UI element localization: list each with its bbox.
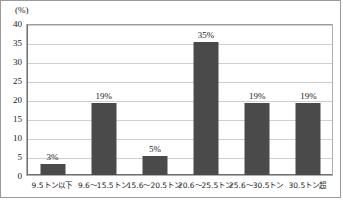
bar: [245, 103, 270, 175]
y-axis-tick-label: 40: [2, 19, 22, 29]
bar-group: 19%: [78, 25, 129, 175]
bar: [142, 156, 167, 175]
bar-value-label: 19%: [249, 91, 266, 101]
x-axis-tick-label: 15.6〜20.5トン: [127, 179, 181, 190]
chart-container: (%) 0510152025303540 3%19%5%35%19%19% 9.…: [0, 0, 341, 198]
bar-value-label: 19%: [300, 91, 317, 101]
x-axis-tick-label: 25.6〜30.5トン: [229, 179, 283, 190]
y-axis-tick-label: 10: [2, 133, 22, 143]
bar-value-label: 35%: [198, 30, 215, 40]
bar-group: 3%: [27, 25, 78, 175]
x-axis-tick-label: 9.6〜15.5トン: [78, 179, 128, 190]
y-axis-tick-label: 15: [2, 114, 22, 124]
bar-group: 19%: [232, 25, 283, 175]
y-axis-tick-label: 35: [2, 38, 22, 48]
y-axis-tick-label: 30: [2, 57, 22, 67]
x-axis-tick-label: 20.6〜25.5トン: [178, 179, 232, 190]
bar: [194, 42, 219, 175]
bar: [296, 103, 321, 175]
bar-group: 5%: [129, 25, 180, 175]
bar-value-label: 3%: [47, 152, 59, 162]
x-axis-tick-label: 9.5トン以下: [32, 179, 72, 190]
y-axis-tick-label: 20: [2, 95, 22, 105]
plot-area: 3%19%5%35%19%19%: [26, 24, 333, 176]
bar: [40, 164, 65, 175]
bar-value-label: 5%: [149, 144, 161, 154]
y-axis-tick-label: 25: [2, 76, 22, 86]
bar-group: 35%: [181, 25, 232, 175]
bar-group: 19%: [283, 25, 334, 175]
bar-value-label: 19%: [95, 91, 112, 101]
y-axis-tick-label: 5: [2, 152, 22, 162]
bar: [91, 103, 116, 175]
y-axis-tick-label: 0: [2, 171, 22, 181]
x-axis-tick-label: 30.5トン超: [289, 179, 327, 190]
y-axis-unit-label: (%): [15, 5, 29, 15]
